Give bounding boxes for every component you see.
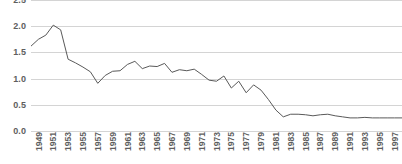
x-axis-tick-label: 1963 (138, 132, 147, 151)
y-axis-tick-label: 0.0 (13, 127, 26, 136)
y-axis: 2.52.01.51.00.50.0 (0, 0, 26, 164)
x-axis-tick-label: 1971 (198, 132, 207, 151)
x-axis-tick-label: 1955 (79, 132, 88, 151)
x-axis-tick-label: 1979 (257, 132, 266, 151)
x-axis-tick-label: 1977 (242, 132, 251, 151)
x-axis-tick-label: 1949 (35, 132, 44, 151)
x-axis-tick-label: 1961 (124, 132, 133, 151)
x-axis-tick-label: 1969 (183, 132, 192, 151)
x-axis-tick-label: 1957 (94, 132, 103, 151)
line-chart: 2.52.01.51.00.50.0 194919511953195519571… (0, 0, 402, 164)
data-series-line (31, 0, 402, 131)
y-axis-tick-label: 2.0 (13, 22, 26, 31)
x-axis-tick-label: 1991 (346, 132, 355, 151)
x-axis-tick-label: 1965 (153, 132, 162, 151)
x-axis-tick-label: 1967 (168, 132, 177, 151)
y-axis-tick-label: 1.0 (13, 74, 26, 83)
x-axis-tick-label: 1975 (227, 132, 236, 151)
x-axis-tick-label: 1989 (331, 132, 340, 151)
plot-area (31, 0, 402, 131)
x-axis-tick-label: 1993 (361, 132, 370, 151)
x-axis: 1949195119531955195719591961196319651967… (31, 131, 402, 164)
x-axis-tick-label: 1997 (391, 132, 400, 151)
y-axis-tick-label: 0.5 (13, 100, 26, 109)
series-path (31, 25, 402, 118)
x-axis-tick-label: 1973 (213, 132, 222, 151)
x-axis-tick-label: 1983 (287, 132, 296, 151)
x-axis-tick-label: 1987 (316, 132, 325, 151)
x-axis-tick-label: 1981 (272, 132, 281, 151)
y-axis-tick-label: 2.5 (13, 0, 26, 5)
x-axis-tick-label: 1985 (302, 132, 311, 151)
x-axis-tick-label: 1951 (49, 132, 58, 151)
y-axis-tick-label: 1.5 (13, 48, 26, 57)
x-axis-tick-label: 1953 (64, 132, 73, 151)
x-axis-tick-label: 1995 (376, 132, 385, 151)
x-axis-tick-label: 1959 (109, 132, 118, 151)
